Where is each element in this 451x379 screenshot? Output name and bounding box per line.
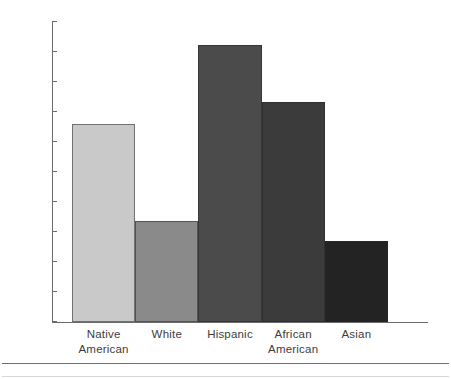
- x-axis-category-label-line: Hispanic: [198, 327, 261, 342]
- x-axis-category-label-line: American: [262, 342, 325, 357]
- y-axis-tick-mark: [52, 171, 57, 172]
- bar: [325, 241, 388, 322]
- x-axis-category-label-line: White: [135, 327, 198, 342]
- y-axis-tick-mark: [52, 291, 57, 292]
- x-axis-category-labels: NativeAmericanWhiteHispanicAfricanAmeric…: [72, 327, 388, 371]
- x-axis-category-label-line: Native: [72, 327, 135, 342]
- y-axis-tick-mark: [52, 21, 57, 22]
- y-axis-tick-mark: [52, 141, 57, 142]
- x-axis-category-label: NativeAmerican: [72, 327, 135, 357]
- y-axis-tick-mark: [52, 81, 57, 82]
- y-axis-tick-mark: [52, 231, 57, 232]
- bar: [135, 221, 198, 322]
- page-separator-rule-secondary: [2, 376, 449, 377]
- bar: [198, 45, 261, 322]
- bar-series: [72, 22, 388, 322]
- y-axis-tick-mark: [52, 261, 57, 262]
- bar: [262, 102, 325, 322]
- y-axis-tick-mark: [52, 201, 57, 202]
- bar: [72, 124, 135, 322]
- bar-chart-figure: 05101520253035404550 NativeAmericanWhite…: [0, 0, 451, 379]
- x-axis-category-label: AfricanAmerican: [262, 327, 325, 357]
- x-axis-category-label-line: African: [262, 327, 325, 342]
- x-axis-category-label-line: Asian: [325, 327, 388, 342]
- x-axis-category-label: White: [135, 327, 198, 342]
- page-separator-rule: [2, 363, 449, 364]
- x-axis-category-label: Asian: [325, 327, 388, 342]
- x-axis-line: [52, 322, 428, 323]
- x-axis-category-label: Hispanic: [198, 327, 261, 342]
- x-axis-category-label-line: American: [72, 342, 135, 357]
- y-axis-tick-mark: [52, 321, 57, 322]
- y-axis-tick-mark: [52, 51, 57, 52]
- y-axis-tick-mark: [52, 111, 57, 112]
- y-axis-line: [52, 22, 53, 323]
